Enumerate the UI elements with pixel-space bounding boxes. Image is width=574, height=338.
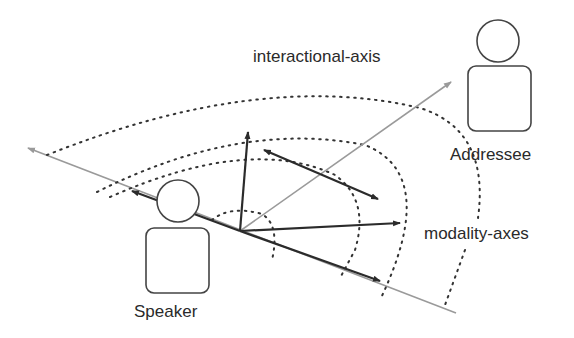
arc-1 bbox=[212, 211, 274, 260]
arrow-diag-b bbox=[320, 174, 378, 199]
addressee-figure bbox=[468, 20, 531, 131]
addressee-label: Addressee bbox=[450, 145, 531, 165]
arc-4b bbox=[445, 250, 465, 305]
speaker-label: Speaker bbox=[134, 302, 197, 322]
addressee-head bbox=[477, 20, 519, 62]
arc-4 bbox=[47, 96, 480, 218]
interactional-axis-arrow bbox=[240, 82, 451, 231]
arrow-diag-a bbox=[264, 150, 320, 174]
interactional-axis-label: interactional-axis bbox=[253, 47, 381, 67]
speaker-head bbox=[157, 180, 199, 222]
arrow-up bbox=[240, 132, 248, 231]
speaker-body bbox=[146, 228, 209, 293]
dotted-arcs bbox=[47, 96, 480, 305]
addressee-body bbox=[468, 66, 531, 131]
arrow-forward bbox=[240, 231, 380, 281]
modality-axes-label: modality-axes bbox=[424, 224, 529, 244]
arrow-right bbox=[240, 223, 400, 231]
